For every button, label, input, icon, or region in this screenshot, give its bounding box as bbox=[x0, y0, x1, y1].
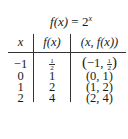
paren-close: ) bbox=[112, 54, 117, 70]
title-eq: = bbox=[68, 14, 82, 29]
header-fx: f(x) bbox=[34, 36, 70, 49]
pair-prefix: −1, bbox=[87, 56, 107, 70]
function-title: f(x) = 2x bbox=[0, 14, 128, 30]
cell-pair: (2, 4) bbox=[71, 92, 128, 105]
title-lhs: f(x) bbox=[50, 14, 68, 29]
header-x: x bbox=[8, 36, 33, 49]
table-header-divider bbox=[8, 52, 126, 53]
cell-fx: 4 bbox=[34, 92, 70, 105]
title-exp: x bbox=[88, 14, 92, 23]
header-pair: (x, f(x)) bbox=[71, 36, 128, 49]
cell-x: 2 bbox=[8, 92, 33, 105]
